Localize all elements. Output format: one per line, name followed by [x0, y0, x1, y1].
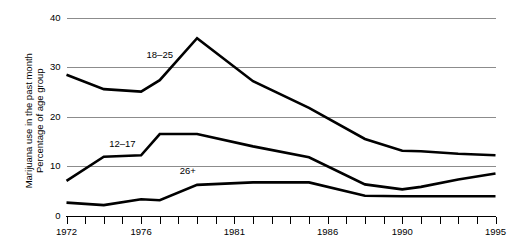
x-tick-label-1976: 1976	[131, 226, 152, 237]
series-annotation-12-17: 12–17	[109, 138, 135, 149]
x-axis-labels-group: 197219761981198619901995	[56, 226, 506, 237]
y-axis-title-line1: Marijuana use in the past month	[23, 53, 34, 188]
y-tick-label-0: 0	[55, 210, 60, 221]
y-axis-labels-group: 010203040	[50, 12, 61, 221]
x-tick-label-1990: 1990	[392, 226, 413, 237]
y-tick-label-40: 40	[50, 12, 61, 23]
y-tick-label-10: 10	[50, 160, 61, 171]
x-tick-label-1981: 1981	[224, 226, 245, 237]
series-lines-group	[67, 38, 496, 205]
y-tick-label-20: 20	[50, 111, 61, 122]
y-axis-title: Marijuana use in the past monthPercentag…	[23, 53, 45, 188]
x-tick-label-1995: 1995	[485, 226, 506, 237]
series-annotation-26+: 26+	[180, 165, 197, 176]
series-annotation-18-25: 18–25	[147, 49, 173, 60]
y-axis-title-line2: Percentage of age group	[34, 68, 45, 173]
marijuana-use-line-chart: 010203040 197219761981198619901995 18–25…	[0, 0, 515, 248]
chart-svg: 010203040 197219761981198619901995 18–25…	[0, 0, 515, 248]
y-tick-label-30: 30	[50, 61, 61, 72]
x-tick-label-1986: 1986	[317, 226, 338, 237]
x-tick-label-1972: 1972	[56, 226, 77, 237]
x-axis-group	[66, 217, 497, 224]
